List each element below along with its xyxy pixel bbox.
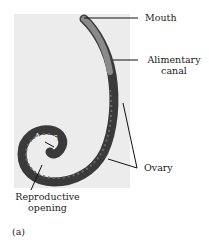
ovary-leader-1 <box>123 103 137 168</box>
reproductive-opening-line2: opening <box>10 202 85 213</box>
reproductive-opening-line1: Reproductive <box>10 191 85 202</box>
alimentary-canal-line1: Alimentary <box>144 54 204 65</box>
reproductive-opening-label: Reproductive opening <box>10 191 85 213</box>
alimentary-canal-label: Alimentary canal <box>144 54 204 76</box>
anus-label: Anus <box>34 131 58 142</box>
ovary-leader-2 <box>108 159 137 168</box>
alimentary-canal-line2: canal <box>144 65 204 76</box>
panel-label: (a) <box>12 226 25 237</box>
ovary-label: Ovary <box>144 162 173 173</box>
anus-leader <box>45 142 54 147</box>
mouth-label: Mouth <box>145 12 177 23</box>
